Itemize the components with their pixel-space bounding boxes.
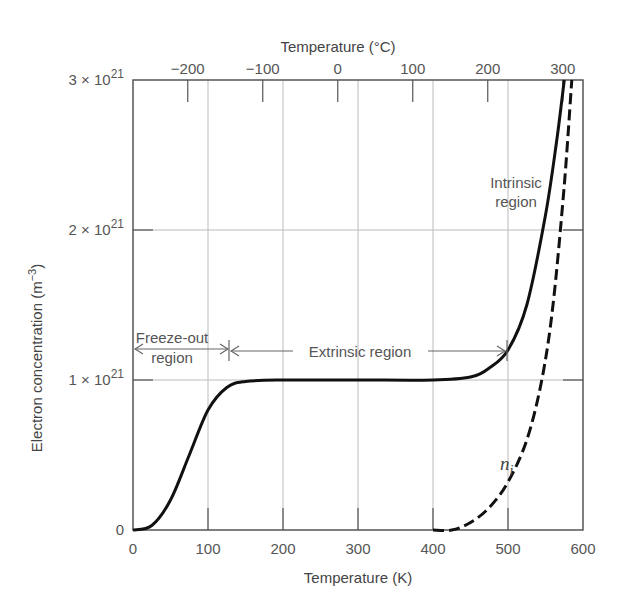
svg-text:600: 600 xyxy=(570,540,595,557)
svg-text:0: 0 xyxy=(116,521,124,538)
svg-text:400: 400 xyxy=(420,540,445,557)
svg-text:Freeze-out: Freeze-out xyxy=(136,329,209,346)
svg-text:region: region xyxy=(495,193,537,210)
svg-text:−200: −200 xyxy=(171,60,205,77)
svg-text:2 × 1021: 2 × 1021 xyxy=(69,217,125,238)
intrinsic-annotation: Intrinsic region xyxy=(490,174,542,210)
chart: 0100200300400500600 −200−1000100200300 0… xyxy=(0,0,624,599)
svg-text:−100: −100 xyxy=(246,60,280,77)
svg-text:1 × 1021: 1 × 1021 xyxy=(69,367,125,388)
svg-text:0: 0 xyxy=(334,60,342,77)
svg-text:Extrinsic region: Extrinsic region xyxy=(309,343,412,360)
svg-text:region: region xyxy=(151,349,193,366)
svg-text:200: 200 xyxy=(270,540,295,557)
svg-text:0: 0 xyxy=(129,540,137,557)
svg-text:Intrinsic: Intrinsic xyxy=(490,174,542,191)
ni-label: ni xyxy=(500,453,514,478)
svg-text:100: 100 xyxy=(400,60,425,77)
x-axis-tick-labels: 0100200300400500600 xyxy=(129,540,596,557)
svg-text:500: 500 xyxy=(495,540,520,557)
y-axis-tick-labels: 01 × 10212 × 10213 × 1021 xyxy=(69,67,125,538)
top-axis-title: Temperature (°C) xyxy=(280,38,395,55)
x-axis-title: Temperature (K) xyxy=(304,569,412,586)
svg-text:3 × 1021: 3 × 1021 xyxy=(69,67,125,88)
svg-text:100: 100 xyxy=(195,540,220,557)
extrinsic-annotation: Extrinsic region xyxy=(231,340,507,361)
y-axis-title: Electron concentration (m−3) xyxy=(26,264,45,452)
freeze-out-annotation: Freeze-out region xyxy=(135,329,229,366)
grid-lines xyxy=(133,80,583,530)
svg-text:ni: ni xyxy=(500,453,514,478)
svg-text:200: 200 xyxy=(475,60,500,77)
top-axis-tick-labels: −200−1000100200300 xyxy=(171,60,575,77)
svg-text:300: 300 xyxy=(345,540,370,557)
svg-text:300: 300 xyxy=(550,60,575,77)
